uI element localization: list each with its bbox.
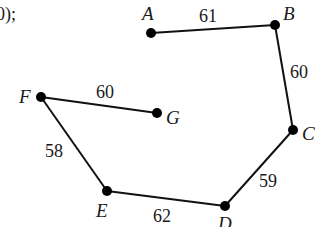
node-b [270, 20, 280, 30]
weight-a-b: 61 [199, 6, 217, 26]
fragment-text: 0); [0, 4, 16, 25]
node-e [102, 186, 112, 196]
node-c [288, 125, 298, 135]
node-a [146, 28, 156, 38]
node-f [36, 92, 46, 102]
label-a: A [140, 3, 154, 24]
label-c: C [302, 123, 315, 144]
label-d: D [217, 213, 232, 227]
node-g [152, 108, 162, 118]
weight-d-e: 62 [153, 206, 171, 226]
label-f: F [18, 86, 31, 107]
edge-c-d [225, 130, 293, 206]
weight-b-c: 60 [290, 62, 308, 82]
label-b: B [283, 3, 295, 24]
node-d [220, 201, 230, 211]
label-e: E [95, 200, 108, 221]
weight-f-g: 60 [96, 82, 114, 102]
edge-d-e [107, 191, 225, 206]
weight-c-d: 59 [259, 171, 277, 191]
edge-a-b [151, 25, 275, 33]
graph-diagram: 0); A B C D E F G 61 60 59 62 58 60 [0, 0, 329, 227]
label-g: G [166, 107, 180, 128]
weight-e-f: 58 [45, 141, 63, 161]
